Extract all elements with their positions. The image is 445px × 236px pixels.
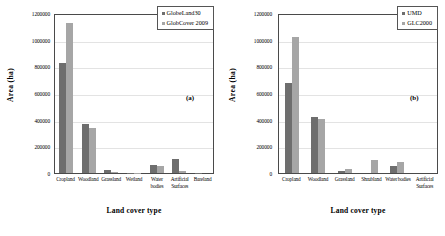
- bar-group: [78, 15, 101, 173]
- legend-label: GlobeLand30: [167, 10, 201, 16]
- y-tick-label: 0: [47, 171, 50, 177]
- legend-b[interactable]: UMD GLC2000: [397, 6, 438, 30]
- bar[interactable]: [397, 162, 404, 173]
- panel-tag-b: (b): [410, 94, 419, 102]
- bar-group: [332, 15, 358, 173]
- x-tick-labels-b: CroplandWoodlandGrasslandShrublandWater …: [278, 176, 438, 190]
- legend-item-globcover2009[interactable]: GlobCover 2009: [162, 20, 208, 26]
- x-axis-title-a: Land cover type: [54, 206, 214, 215]
- bar-group: [55, 15, 78, 173]
- bar[interactable]: [111, 172, 118, 173]
- bar-group: [279, 15, 305, 173]
- y-tick-labels-b: 020000040000060000080000010000001200000: [236, 14, 274, 174]
- bar[interactable]: [390, 166, 397, 173]
- x-tick-label: Bareland: [191, 176, 214, 190]
- x-tick-label: Water bodies: [145, 176, 168, 190]
- legend-swatch-icon: [402, 12, 405, 15]
- legend-label: GLC2000: [407, 20, 432, 26]
- legend-swatch-icon: [402, 22, 405, 25]
- y-tick-label: 1200000: [254, 11, 272, 17]
- bar[interactable]: [104, 170, 111, 173]
- x-tick-label: Cropland: [278, 176, 305, 190]
- bar[interactable]: [285, 83, 292, 173]
- figure-container: Area (ha) 020000040000060000080000010000…: [0, 0, 445, 236]
- legend-swatch-icon: [162, 12, 165, 15]
- x-tick-label: Artificial Surfaces: [411, 176, 438, 190]
- bar-group: [100, 15, 123, 173]
- panel-tag-a: (a): [186, 94, 194, 102]
- bar[interactable]: [311, 117, 318, 173]
- x-tick-label: Grassland: [100, 176, 123, 190]
- bar[interactable]: [318, 119, 325, 173]
- chart-panel-b: Area (ha) 020000040000060000080000010000…: [222, 0, 445, 236]
- legend-item-glc2000[interactable]: GLC2000: [402, 20, 432, 26]
- bar[interactable]: [66, 23, 73, 173]
- bar[interactable]: [179, 171, 186, 173]
- bar[interactable]: [172, 159, 179, 173]
- y-tick-label: 400000: [34, 118, 50, 124]
- bar-group: [358, 15, 384, 173]
- y-tick-label: 0: [269, 171, 272, 177]
- y-tick-label: 1000000: [32, 38, 50, 44]
- x-tick-label: Water bodies: [385, 176, 412, 190]
- y-tick-label: 200000: [256, 144, 272, 150]
- bar[interactable]: [345, 169, 352, 173]
- bar-group: [145, 15, 168, 173]
- bar[interactable]: [150, 165, 157, 173]
- x-tick-label: Cropland: [54, 176, 77, 190]
- y-tick-label: 800000: [34, 64, 50, 70]
- x-tick-labels-a: CroplandWoodlandGrasslandWetlandWater bo…: [54, 176, 214, 190]
- y-tick-label: 1200000: [32, 11, 50, 17]
- y-tick-labels-a: 020000040000060000080000010000001200000: [14, 14, 52, 174]
- bar[interactable]: [89, 128, 96, 173]
- legend-item-umd[interactable]: UMD: [402, 10, 432, 16]
- bar[interactable]: [371, 160, 378, 173]
- legend-item-globeland30[interactable]: GlobeLand30: [162, 10, 208, 16]
- y-tick-label: 600000: [34, 91, 50, 97]
- x-tick-label: Shrubland: [358, 176, 385, 190]
- x-axis-title-b: Land cover type: [278, 206, 438, 215]
- bar-group: [123, 15, 146, 173]
- x-tick-label: Wetland: [123, 176, 146, 190]
- x-tick-label: Woodland: [305, 176, 332, 190]
- bar[interactable]: [82, 124, 89, 173]
- legend-label: GlobCover 2009: [167, 20, 208, 26]
- bar[interactable]: [338, 171, 345, 173]
- bar[interactable]: [292, 37, 299, 173]
- legend-a[interactable]: GlobeLand30 GlobCover 2009: [157, 6, 214, 30]
- legend-label: UMD: [407, 10, 421, 16]
- bar[interactable]: [59, 63, 66, 173]
- y-tick-label: 200000: [34, 144, 50, 150]
- x-tick-label: Artificial Surfaces: [168, 176, 191, 190]
- x-tick-label: Woodland: [77, 176, 100, 190]
- chart-panel-a: Area (ha) 020000040000060000080000010000…: [0, 0, 222, 236]
- bar-group: [305, 15, 331, 173]
- y-tick-label: 600000: [256, 91, 272, 97]
- y-tick-label: 800000: [256, 64, 272, 70]
- bar[interactable]: [157, 166, 164, 173]
- y-tick-label: 400000: [256, 118, 272, 124]
- y-tick-label: 1000000: [254, 38, 272, 44]
- legend-swatch-icon: [162, 22, 165, 25]
- bar-group: [384, 15, 410, 173]
- x-tick-label: Grassland: [331, 176, 358, 190]
